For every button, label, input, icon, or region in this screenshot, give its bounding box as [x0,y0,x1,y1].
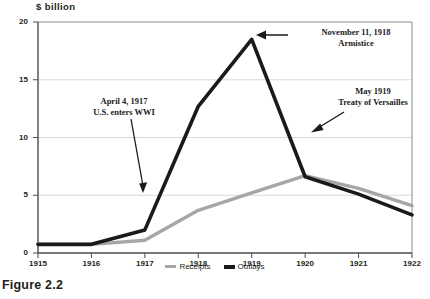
annotation-versailles-line1: May 1919 [316,86,430,97]
chart-plot-area: $ billion 0 5 10 15 20 1915 1916 1917 19… [0,0,430,268]
y-axis-unit-title: $ billion [36,1,76,12]
series-line-outlays [38,39,412,244]
y-tick-label-10: 10 [2,133,28,142]
annotation-versailles-line2: Treaty of Versailles [316,97,430,108]
legend-item-receipts: Receipts [165,262,210,271]
legend-label-receipts: Receipts [179,262,210,271]
chart-legend: Receipts Outlays [0,262,430,271]
annotation-us-enters-wwi: April 4, 1917 U.S. enters WWI [64,96,184,117]
figure-caption: Figure 2.2 [2,278,63,292]
legend-swatch-outlays-icon [224,265,235,269]
annotation-treaty-of-versailles: May 1919 Treaty of Versailles [316,86,430,107]
y-tick-label-0: 0 [2,248,28,257]
annotation-arrow-versailles [311,112,344,133]
legend-swatch-receipts-icon [165,265,176,268]
series-line-receipts [38,176,412,245]
annotation-arrow-wwi [131,119,147,193]
x-tick-marks [38,253,412,258]
legend-label-outlays: Outlays [238,262,265,271]
annotation-armistice: November 11, 1918 Armistice [291,27,421,48]
y-tick-label-15: 15 [2,75,28,84]
y-tick-label-20: 20 [2,17,28,26]
annotation-wwi-line1: April 4, 1917 [64,96,184,107]
annotation-wwi-line2: U.S. enters WWI [64,107,184,118]
annotation-armistice-line1: November 11, 1918 [291,27,421,38]
legend-item-outlays: Outlays [224,262,265,271]
annotation-arrow-armistice [256,31,288,40]
annotation-armistice-line2: Armistice [291,38,421,49]
y-tick-label-5: 5 [2,190,28,199]
figure-container: $ billion 0 5 10 15 20 1915 1916 1917 19… [0,0,430,299]
